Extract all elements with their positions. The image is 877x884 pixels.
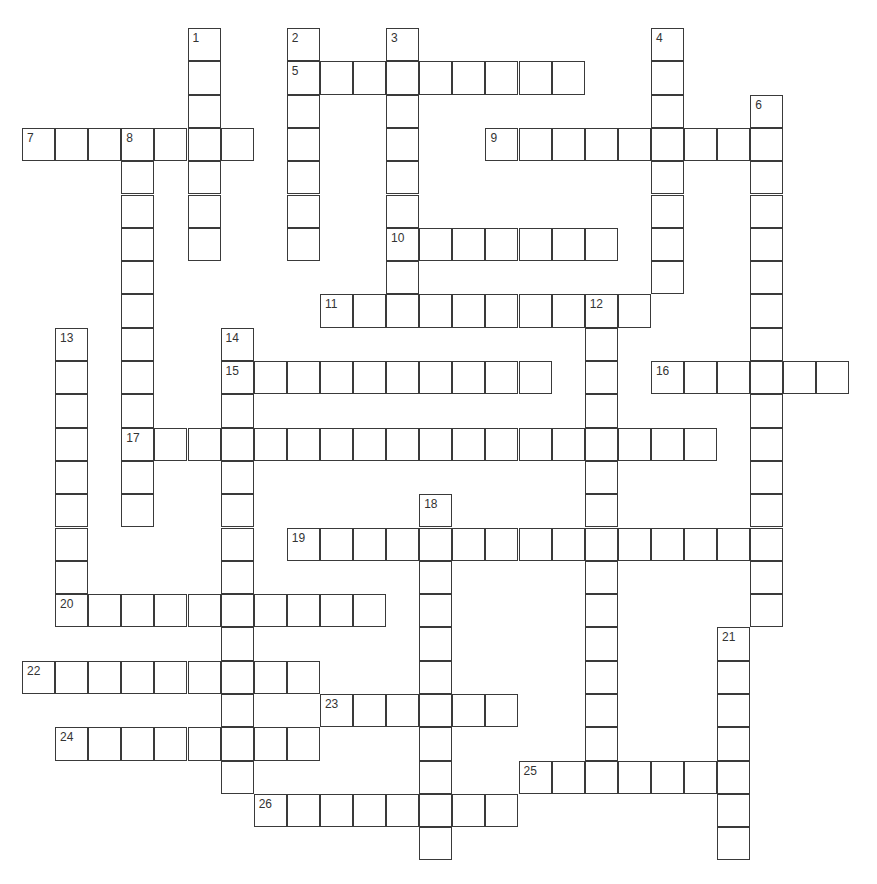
crossword-cell[interactable] [221, 528, 254, 561]
crossword-cell-22[interactable]: 22 [22, 661, 55, 694]
crossword-cell[interactable] [121, 328, 154, 361]
crossword-cell[interactable] [419, 694, 452, 727]
crossword-cell[interactable] [386, 95, 419, 128]
crossword-cell[interactable] [452, 528, 485, 561]
crossword-cell[interactable] [386, 694, 419, 727]
crossword-cell-3[interactable]: 3 [386, 28, 419, 61]
crossword-cell[interactable] [750, 494, 783, 527]
crossword-cell[interactable] [121, 594, 154, 627]
crossword-cell[interactable] [287, 594, 320, 627]
crossword-cell[interactable] [320, 594, 353, 627]
crossword-cell[interactable] [386, 195, 419, 228]
crossword-cell-21[interactable]: 21 [717, 627, 750, 660]
crossword-cell[interactable] [750, 561, 783, 594]
crossword-cell[interactable] [485, 794, 518, 827]
crossword-cell[interactable] [585, 361, 618, 394]
crossword-cell-25[interactable]: 25 [519, 761, 552, 794]
crossword-cell[interactable] [188, 727, 221, 760]
crossword-cell[interactable] [386, 294, 419, 327]
crossword-cell-20[interactable]: 20 [55, 594, 88, 627]
crossword-cell[interactable] [188, 228, 221, 261]
crossword-cell[interactable] [585, 561, 618, 594]
crossword-cell[interactable] [419, 228, 452, 261]
crossword-cell-13[interactable]: 13 [55, 328, 88, 361]
crossword-cell[interactable] [651, 161, 684, 194]
crossword-cell[interactable] [452, 794, 485, 827]
crossword-cell-7[interactable]: 7 [22, 128, 55, 161]
crossword-cell[interactable] [452, 361, 485, 394]
crossword-cell[interactable] [750, 161, 783, 194]
crossword-cell[interactable] [88, 661, 121, 694]
crossword-cell[interactable] [419, 428, 452, 461]
crossword-cell[interactable] [154, 428, 187, 461]
crossword-cell[interactable] [618, 128, 651, 161]
crossword-cell[interactable] [651, 128, 684, 161]
crossword-cell-17[interactable]: 17 [121, 428, 154, 461]
crossword-cell[interactable] [419, 761, 452, 794]
crossword-cell[interactable] [684, 761, 717, 794]
crossword-cell[interactable] [55, 461, 88, 494]
crossword-cell[interactable] [552, 61, 585, 94]
crossword-cell[interactable] [519, 361, 552, 394]
crossword-cell[interactable] [419, 361, 452, 394]
crossword-cell[interactable] [585, 727, 618, 760]
crossword-cell[interactable] [651, 528, 684, 561]
crossword-cell[interactable] [121, 461, 154, 494]
crossword-cell[interactable] [585, 528, 618, 561]
crossword-cell[interactable] [353, 428, 386, 461]
crossword-cell[interactable] [750, 195, 783, 228]
crossword-cell[interactable] [585, 694, 618, 727]
crossword-cell[interactable] [419, 727, 452, 760]
crossword-cell[interactable] [750, 294, 783, 327]
crossword-cell[interactable] [254, 594, 287, 627]
crossword-cell[interactable] [221, 761, 254, 794]
crossword-cell[interactable] [121, 661, 154, 694]
crossword-cell[interactable] [419, 594, 452, 627]
crossword-cell[interactable] [519, 294, 552, 327]
crossword-cell[interactable] [519, 61, 552, 94]
crossword-cell[interactable] [717, 528, 750, 561]
crossword-cell[interactable] [419, 827, 452, 860]
crossword-cell[interactable] [419, 528, 452, 561]
crossword-cell[interactable] [154, 594, 187, 627]
crossword-cell[interactable] [585, 761, 618, 794]
crossword-cell[interactable] [88, 128, 121, 161]
crossword-cell[interactable] [287, 128, 320, 161]
crossword-cell[interactable] [221, 128, 254, 161]
crossword-cell[interactable] [651, 761, 684, 794]
crossword-cell-10[interactable]: 10 [386, 228, 419, 261]
crossword-cell[interactable] [585, 461, 618, 494]
crossword-cell[interactable] [55, 394, 88, 427]
crossword-cell[interactable] [221, 494, 254, 527]
crossword-cell[interactable] [221, 594, 254, 627]
crossword-cell[interactable] [121, 228, 154, 261]
crossword-cell[interactable] [386, 61, 419, 94]
crossword-cell[interactable] [419, 627, 452, 660]
crossword-cell-14[interactable]: 14 [221, 328, 254, 361]
crossword-cell[interactable] [717, 361, 750, 394]
crossword-cell[interactable] [750, 428, 783, 461]
crossword-cell[interactable] [320, 361, 353, 394]
crossword-cell[interactable] [585, 328, 618, 361]
crossword-cell[interactable] [684, 428, 717, 461]
crossword-cell[interactable] [254, 361, 287, 394]
crossword-cell[interactable] [717, 661, 750, 694]
crossword-cell[interactable] [452, 294, 485, 327]
crossword-cell-5[interactable]: 5 [287, 61, 320, 94]
crossword-cell[interactable] [287, 95, 320, 128]
crossword-cell[interactable] [519, 128, 552, 161]
crossword-cell-23[interactable]: 23 [320, 694, 353, 727]
crossword-cell[interactable] [585, 627, 618, 660]
crossword-cell[interactable] [55, 428, 88, 461]
crossword-cell[interactable] [585, 594, 618, 627]
crossword-cell[interactable] [651, 261, 684, 294]
crossword-cell[interactable] [221, 461, 254, 494]
crossword-cell[interactable] [353, 361, 386, 394]
crossword-cell[interactable] [386, 428, 419, 461]
crossword-cell-24[interactable]: 24 [55, 727, 88, 760]
crossword-cell[interactable] [320, 528, 353, 561]
crossword-cell[interactable] [750, 228, 783, 261]
crossword-cell[interactable] [618, 428, 651, 461]
crossword-cell[interactable] [121, 727, 154, 760]
crossword-cell[interactable] [320, 428, 353, 461]
